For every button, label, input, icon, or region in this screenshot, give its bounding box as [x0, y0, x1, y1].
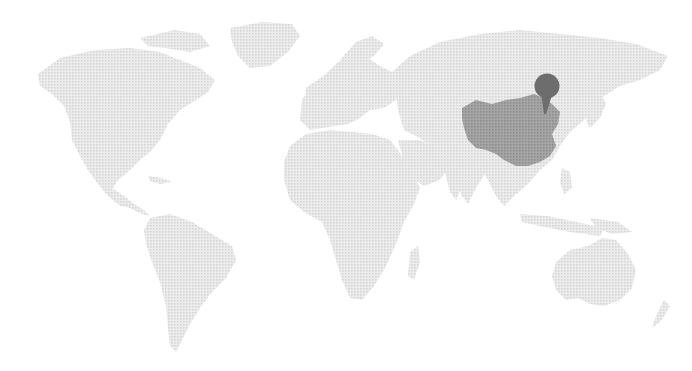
- southeast-asia-islands: [520, 214, 604, 236]
- world-map-svg: [0, 0, 692, 371]
- north-america: [38, 48, 215, 208]
- south-america: [144, 214, 236, 352]
- madagascar: [408, 246, 420, 280]
- philippines: [560, 168, 572, 194]
- new-zealand: [652, 300, 670, 328]
- world-map: [0, 0, 692, 371]
- caribbean: [148, 176, 172, 184]
- greenland: [230, 22, 300, 68]
- africa: [284, 130, 420, 300]
- australia: [552, 238, 636, 306]
- arctic-islands: [140, 30, 210, 52]
